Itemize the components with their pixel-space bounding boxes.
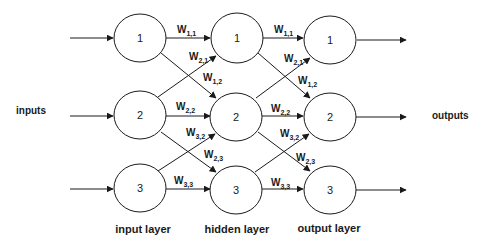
inputs-label: inputs xyxy=(16,105,46,116)
output-node-3: 3 xyxy=(304,166,356,214)
output-arrows xyxy=(356,40,406,190)
output-node-3-label: 3 xyxy=(327,184,333,196)
input-node-3-label: 3 xyxy=(137,182,143,194)
weight-w32-a: W3,2 xyxy=(186,127,205,141)
input-layer-label: input layer xyxy=(115,223,171,235)
hidden-node-2: 2 xyxy=(210,93,262,141)
input-layer: 1 2 3 xyxy=(114,14,166,212)
hidden-layer-label: hidden layer xyxy=(205,223,271,235)
input-node-1-label: 1 xyxy=(137,32,143,44)
input-node-2-label: 2 xyxy=(137,109,143,121)
hidden-node-2-label: 2 xyxy=(233,111,239,123)
weight-w11-b: W1,1 xyxy=(274,24,293,38)
hidden-node-3: 3 xyxy=(210,166,262,214)
weight-w32-b: W3,2 xyxy=(280,128,299,142)
hidden-node-1: 1 xyxy=(211,13,263,63)
weight-w23-b: W2,3 xyxy=(296,152,315,166)
input-arrows xyxy=(70,38,113,189)
weight-w22-b: W2,2 xyxy=(271,103,290,117)
input-node-3: 3 xyxy=(114,164,166,212)
weight-w21-b: W2,1 xyxy=(284,53,303,67)
hidden-node-3-label: 3 xyxy=(233,184,239,196)
outputs-label: outputs xyxy=(432,110,469,121)
hidden-node-1-label: 1 xyxy=(234,32,240,44)
weight-w11-a: W1,1 xyxy=(177,24,196,38)
weight-w33-a: W3,3 xyxy=(174,175,193,189)
output-node-1-label: 1 xyxy=(327,34,333,46)
output-node-1: 1 xyxy=(304,16,356,64)
weight-w12-b: W1,2 xyxy=(298,75,317,89)
hidden-layer: 1 2 3 xyxy=(210,13,263,214)
input-node-1: 1 xyxy=(114,14,166,62)
output-node-2-label: 2 xyxy=(327,111,333,123)
output-layer: 1 2 3 xyxy=(304,16,356,214)
input-node-2: 2 xyxy=(114,91,166,139)
weight-w12-a: W1,2 xyxy=(203,72,222,86)
output-layer-label: output layer xyxy=(298,222,362,234)
weight-w23-a: W2,3 xyxy=(204,149,223,163)
output-node-2: 2 xyxy=(304,93,356,141)
weight-w21-a: W2,1 xyxy=(189,51,208,65)
weight-w22-a: W2,2 xyxy=(176,101,195,115)
neural-network-diagram: inputs outputs 1 xyxy=(0,0,485,245)
